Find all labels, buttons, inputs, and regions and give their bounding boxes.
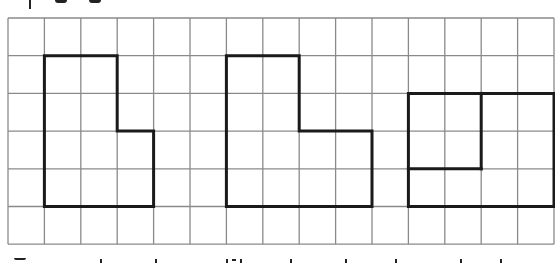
clipped-glyph-fragment (226, 259, 228, 263)
clipped-glyph-fragment (100, 259, 102, 263)
clipped-glyph-fragment (395, 259, 397, 263)
clipped-glyph-fragment (500, 259, 502, 263)
clipped-glyph-fragment (345, 259, 347, 263)
clipped-glyph-fragment (290, 259, 292, 263)
clipped-glyph-fragment (240, 259, 242, 263)
clipped-glyph-fragment (14, 258, 26, 260)
clipped-glyph-fragment (89, 0, 101, 3)
clipped-glyph-fragment (460, 259, 462, 263)
grid-diagram (0, 0, 555, 263)
grid-canvas (0, 0, 555, 263)
clipped-glyph-fragment (232, 259, 236, 261)
clipped-glyph-fragment (29, 0, 31, 9)
clipped-glyph-fragment (155, 259, 157, 263)
clipped-glyph-fragment (55, 0, 67, 3)
grid-lines (8, 18, 554, 244)
